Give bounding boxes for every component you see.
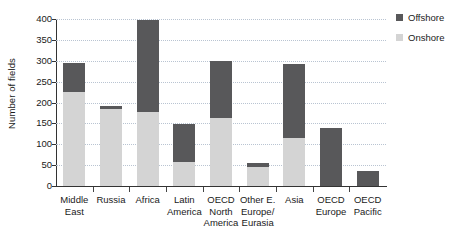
stacked-bar-chart: Number of fields 05010015020025030035040… — [0, 0, 459, 239]
bar-segment-offshore[interactable] — [320, 128, 342, 186]
x-axis-category-label: Latin America — [166, 194, 203, 217]
x-axis-category-label: Asia — [276, 194, 313, 206]
x-axis-tick-mark — [239, 187, 240, 192]
bar-group[interactable] — [357, 19, 379, 186]
y-axis-tick-mark — [52, 123, 56, 124]
y-axis-tick-label: 150 — [22, 118, 52, 128]
y-axis-tick-mark — [52, 40, 56, 41]
plot-area — [56, 19, 386, 186]
bar-segment-onshore[interactable] — [283, 138, 305, 186]
y-axis-tick-mark — [52, 186, 56, 187]
x-axis-tick-mark — [129, 187, 130, 192]
bar-group[interactable] — [137, 19, 159, 186]
y-axis-tick-labels: 050100150200250300350400 — [18, 0, 52, 239]
bar-group[interactable] — [247, 19, 269, 186]
y-axis-tick-label: 50 — [22, 160, 52, 170]
x-axis-category-label: OECD North America — [203, 194, 240, 229]
y-axis-tick-label: 400 — [22, 14, 52, 24]
legend-item[interactable]: Onshore — [396, 32, 444, 43]
bar-group[interactable] — [320, 19, 342, 186]
bar-segment-onshore[interactable] — [63, 92, 85, 186]
legend-item-label: Onshore — [408, 32, 444, 43]
x-axis-tick-mark — [166, 187, 167, 192]
y-axis-title-label: Number of fields — [6, 58, 17, 129]
x-axis-category-label: Middle East — [56, 194, 93, 217]
bar-segment-onshore[interactable] — [173, 162, 195, 186]
y-axis-tick-mark — [52, 82, 56, 83]
bar-segment-offshore[interactable] — [283, 64, 305, 138]
y-axis-tick-mark — [52, 61, 56, 62]
x-axis-tick-mark — [276, 187, 277, 192]
y-axis-tick-mark — [52, 19, 56, 20]
x-axis-category-label: Africa — [129, 194, 166, 206]
bar-segment-onshore[interactable] — [247, 167, 269, 186]
legend-item[interactable]: Offshore — [396, 12, 444, 23]
x-axis-category-label: OECD Europe — [313, 194, 350, 217]
x-axis-tick-mark — [203, 187, 204, 192]
bar-segment-offshore[interactable] — [137, 20, 159, 111]
x-axis-category-label: Other E. Europe/ Eurasia — [239, 194, 276, 229]
bar-group[interactable] — [283, 19, 305, 186]
bar-group[interactable] — [100, 19, 122, 186]
bar-segment-offshore[interactable] — [210, 61, 232, 119]
x-axis-category-label: Russia — [93, 194, 130, 206]
y-axis-tick-label: 0 — [22, 181, 52, 191]
bar-group[interactable] — [173, 19, 195, 186]
y-axis-tick-label: 300 — [22, 56, 52, 66]
y-axis-tick-label: 250 — [22, 77, 52, 87]
bar-segment-onshore[interactable] — [100, 109, 122, 186]
y-axis-tick-mark — [52, 144, 56, 145]
bar-group[interactable] — [63, 19, 85, 186]
bar-segment-offshore[interactable] — [63, 63, 85, 92]
bar-segment-offshore[interactable] — [173, 124, 195, 162]
y-axis-tick-mark — [52, 165, 56, 166]
legend-swatch-icon — [396, 14, 403, 21]
y-axis-tick-label: 200 — [22, 98, 52, 108]
chart-legend: OffshoreOnshore — [396, 12, 444, 52]
bar-segment-offshore[interactable] — [247, 163, 269, 167]
legend-item-label: Offshore — [408, 12, 444, 23]
x-axis-tick-mark — [349, 187, 350, 192]
bar-segment-offshore[interactable] — [357, 171, 379, 186]
bar-segment-offshore[interactable] — [100, 106, 122, 109]
y-axis-tick-label: 100 — [22, 139, 52, 149]
bar-group[interactable] — [210, 19, 232, 186]
bar-segment-onshore[interactable] — [137, 112, 159, 186]
x-axis-line — [56, 186, 387, 187]
legend-swatch-icon — [396, 34, 403, 41]
x-axis-tick-mark — [313, 187, 314, 192]
y-axis-tick-mark — [52, 103, 56, 104]
bar-segment-onshore[interactable] — [210, 118, 232, 186]
x-axis-tick-mark — [93, 187, 94, 192]
x-axis-category-label: OECD Pacific — [349, 194, 386, 217]
y-axis-tick-label: 350 — [22, 35, 52, 45]
